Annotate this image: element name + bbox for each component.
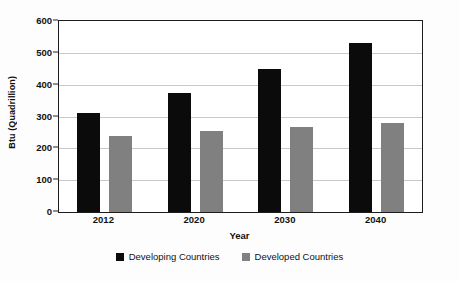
y-tick-label-0: 0 <box>47 206 52 217</box>
bar-2020-developing <box>168 93 191 212</box>
bar-group-2040 <box>331 21 422 212</box>
plot-area <box>58 20 423 213</box>
legend-label-developed: Developed Countries <box>255 251 344 262</box>
bar-2040-developing <box>349 43 372 212</box>
y-tick-label-500: 500 <box>36 46 52 57</box>
bar-2012-developed <box>109 136 132 212</box>
bar-group-2012 <box>59 21 150 212</box>
bar-2040-developed <box>381 123 404 212</box>
bar-2030-developed <box>290 127 313 212</box>
y-tick-label-200: 200 <box>36 142 52 153</box>
y-axis-tick-labels: 0100200300400500600 <box>24 14 58 211</box>
x-axis-title: Year <box>58 230 421 241</box>
bar-2020-developed <box>200 131 223 212</box>
x-axis-tick-labels: 2012202020302040 <box>58 214 421 225</box>
x-tick-label-2012: 2012 <box>58 214 149 225</box>
legend-swatch-icon-developing <box>116 253 124 261</box>
x-tick-label-2020: 2020 <box>149 214 240 225</box>
bar-group-2020 <box>150 21 241 212</box>
y-tick-label-600: 600 <box>36 15 52 26</box>
bar-2012-developing <box>77 113 100 212</box>
x-tick-label-2030: 2030 <box>240 214 331 225</box>
bar-chart-figure: Btu (Quadrillion) 0100200300400500600 20… <box>0 0 459 281</box>
legend-entry-developing[interactable]: Developing Countries <box>116 251 220 262</box>
legend-swatch-icon-developed <box>242 253 250 261</box>
bar-2030-developing <box>258 69 281 212</box>
y-axis-title: Btu (Quadrillion) <box>0 0 24 225</box>
bar-group-2030 <box>241 21 332 212</box>
y-tick-label-400: 400 <box>36 78 52 89</box>
legend-entry-developed[interactable]: Developed Countries <box>242 251 344 262</box>
bars-layer <box>59 21 422 212</box>
y-tick-label-300: 300 <box>36 110 52 121</box>
x-tick-label-2040: 2040 <box>330 214 421 225</box>
y-axis-title-text: Btu (Quadrillion) <box>7 76 17 149</box>
y-tick-label-100: 100 <box>36 174 52 185</box>
legend-label-developing: Developing Countries <box>129 251 220 262</box>
chart-legend: Developing CountriesDeveloped Countries <box>0 251 459 262</box>
